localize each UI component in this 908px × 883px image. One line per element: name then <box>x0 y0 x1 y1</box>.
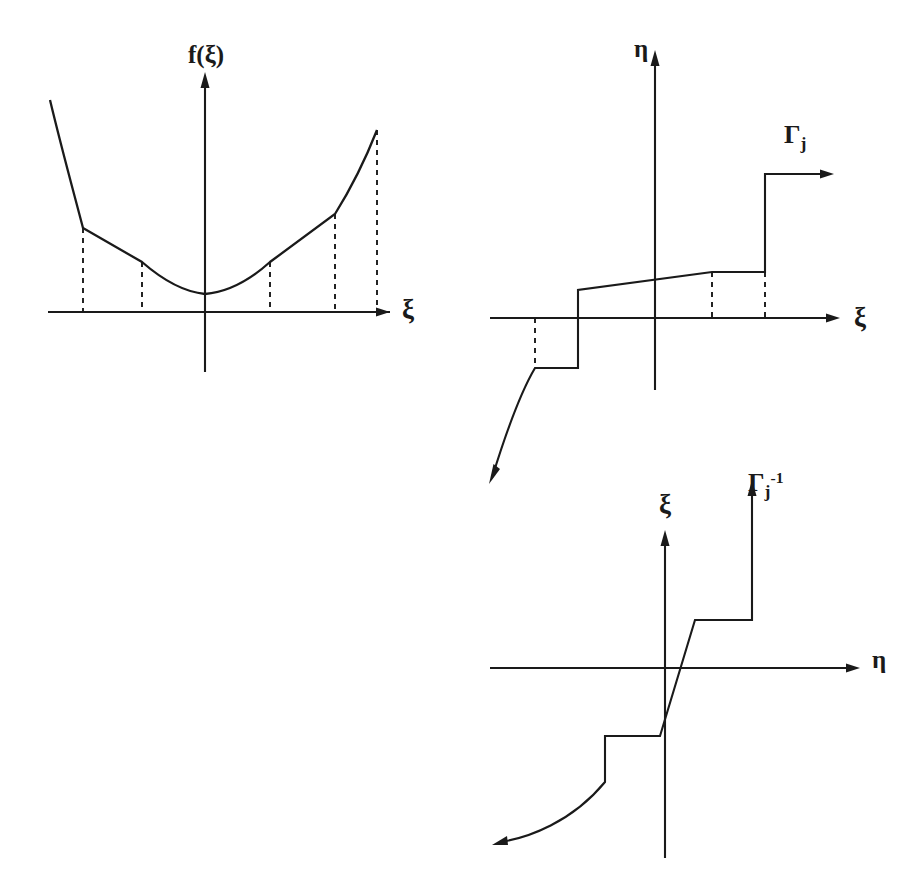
panel2-y-axis-label: η <box>634 36 648 61</box>
figure-canvas <box>0 0 908 883</box>
panel2-curve-label-subscript: j <box>801 133 807 153</box>
panel1-x-axis-arrowhead <box>376 308 390 317</box>
panel2-y-axis-arrowhead <box>651 50 660 66</box>
panel2-plateau-arrowhead <box>820 170 834 179</box>
panel2-x-axis-label: ξ <box>854 304 866 331</box>
panel2-curve-label-gamma: Γ <box>784 120 801 149</box>
panel1-x-axis-label: ξ <box>402 296 414 323</box>
panel3-staircase <box>500 487 752 842</box>
figure-root: f(ξ) ξ η Γj ξ ξ Γj-1 η <box>0 0 908 883</box>
panel2-x-axis-arrowhead <box>826 314 840 323</box>
panel3-x-axis-label: η <box>872 647 886 672</box>
panel1-y-axis-label: f(ξ) <box>188 42 224 67</box>
panel3-y-axis-label: ξ <box>659 491 671 518</box>
panel3-curve-label-superscript: -1 <box>770 469 783 486</box>
panel3-curve-label-gamma: Γ <box>748 468 765 497</box>
panel3-x-axis-arrowhead <box>846 664 860 673</box>
panel2-staircase <box>492 174 824 478</box>
panel-quantizer-forward <box>489 50 840 484</box>
panel3-tail-arrowhead <box>492 836 508 845</box>
panel-cost-function <box>48 72 390 372</box>
panel2-tail-arrowhead <box>489 464 500 484</box>
panel1-cost-curve <box>50 100 377 294</box>
panel-quantizer-inverse <box>490 480 860 858</box>
panel3-curve-label: Γj-1 <box>748 470 783 501</box>
panel2-curve-label: Γj <box>784 122 806 153</box>
panel1-y-axis-arrowhead <box>201 72 210 88</box>
panel3-y-axis-arrowhead <box>661 530 670 546</box>
